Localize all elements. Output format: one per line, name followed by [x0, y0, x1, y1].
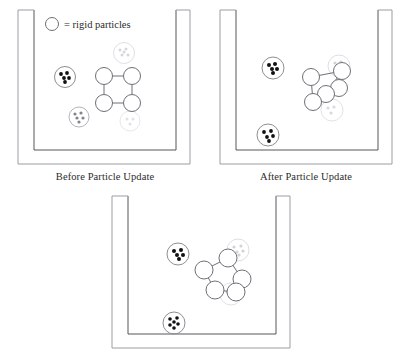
- particle-cluster-dark: [167, 243, 189, 265]
- panel-before-particle-update: = rigid particles: [4, 4, 206, 170]
- rigid-body-square: [96, 68, 141, 112]
- rigid-particle-node: [96, 95, 113, 112]
- rigid-particle-node: [124, 68, 141, 85]
- panel-after-canvas: [210, 4, 402, 170]
- particle-cluster-dark: [163, 312, 185, 334]
- particle-cluster-light: [69, 107, 89, 127]
- particle-cluster-dark: [262, 57, 284, 79]
- particle-update-figure: = rigid particles: [0, 0, 403, 363]
- rigid-particle-node: [303, 69, 320, 86]
- rigid-particle-node: [96, 68, 113, 85]
- rigid-particle-node: [305, 94, 322, 111]
- rigid-body-deformed: [303, 63, 351, 111]
- legend-label: = rigid particles: [64, 19, 131, 30]
- rigid-particle-node: [195, 261, 213, 279]
- panel-after-particle-update: [210, 4, 402, 170]
- ghost-particle-cluster: [120, 111, 140, 131]
- rigid-body-pentagon: [195, 249, 251, 301]
- panel-final-canvas: [104, 192, 300, 354]
- panel-final-particle-state: [104, 192, 300, 354]
- beaker-outer-outline: [220, 10, 392, 164]
- rigid-particle-node: [334, 63, 351, 80]
- rigid-particle-node: [124, 95, 141, 112]
- particle-cluster-dark: [55, 67, 76, 88]
- rigid-particle-node: [227, 283, 245, 301]
- caption-before-particle-update: Before Particle Update: [4, 171, 206, 182]
- legend-circle-icon: [46, 18, 59, 31]
- particle-cluster-dark: [257, 124, 279, 146]
- rigid-particle-node: [206, 281, 224, 299]
- caption-after-particle-update: After Particle Update: [210, 171, 402, 182]
- rigid-particle-node: [219, 249, 237, 267]
- ghost-particle-cluster: [114, 43, 135, 64]
